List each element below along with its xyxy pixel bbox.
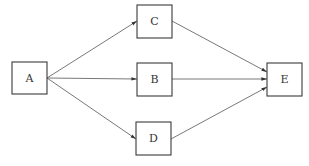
edge-a-to-b xyxy=(47,78,137,79)
flow-diagram: A C B D E xyxy=(0,0,309,166)
edge-a-to-c xyxy=(47,21,137,78)
edge-c-to-e xyxy=(172,21,267,72)
node-a: A xyxy=(12,62,47,94)
node-e: E xyxy=(267,63,302,96)
node-d-label: D xyxy=(149,132,158,145)
node-c: C xyxy=(137,5,172,38)
node-c-label: C xyxy=(150,15,158,28)
node-a-label: A xyxy=(25,72,35,85)
node-d: D xyxy=(136,122,171,155)
node-e-label: E xyxy=(280,73,288,86)
edge-d-to-e xyxy=(171,87,267,139)
edge-a-to-d xyxy=(47,78,136,139)
node-b: B xyxy=(137,63,172,96)
node-b-label: B xyxy=(150,73,158,86)
